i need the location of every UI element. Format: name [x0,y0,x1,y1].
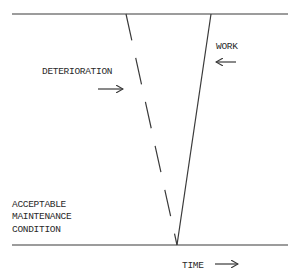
time-axis-label: TIME [182,260,204,271]
deterioration-label: DETERIORATION [42,66,112,77]
acceptable-label-line3: CONDITION [12,224,61,235]
work-solid-line [177,14,211,245]
maintenance-diagram: WORK DETERIORATION ACCEPTABLE MAINTENANC… [0,0,304,276]
deterioration-dashed-line [126,14,177,245]
work-label: WORK [216,41,238,52]
acceptable-label-line1: ACCEPTABLE [12,199,67,210]
acceptable-label-line2: MAINTENANCE [12,211,72,222]
diagram-svg: WORK DETERIORATION ACCEPTABLE MAINTENANC… [0,0,304,276]
